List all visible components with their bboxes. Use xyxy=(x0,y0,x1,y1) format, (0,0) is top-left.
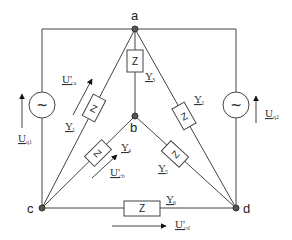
label-y5: Y 5 xyxy=(158,162,168,175)
svg-text:Z: Z xyxy=(139,203,145,214)
svg-text:~: ~ xyxy=(230,97,242,113)
voltage-source-q2: ~ xyxy=(223,92,249,118)
arrow-ucd: U' cd xyxy=(112,218,190,231)
svg-text:a: a xyxy=(131,8,139,23)
impedance-y6: Z xyxy=(124,201,160,216)
impedance-y1: Z xyxy=(82,94,106,122)
svg-text:4: 4 xyxy=(128,148,131,154)
svg-text:cb: cb xyxy=(119,173,125,179)
impedance-y2: Z xyxy=(172,102,196,130)
impedance-y3: Z xyxy=(127,50,143,72)
label-y2: Y 2 xyxy=(194,93,204,106)
svg-text:3: 3 xyxy=(152,77,155,83)
label-y4: Y 4 xyxy=(121,141,131,154)
svg-text:d: d xyxy=(243,201,250,216)
label-y1: Y 1 xyxy=(65,120,75,133)
node-a: a xyxy=(131,8,139,32)
svg-text:c: c xyxy=(27,201,34,216)
svg-text:2: 2 xyxy=(201,100,204,106)
circuit-diagram: Z Z Z Z Z Z ~ ~ a b c xyxy=(0,0,292,240)
svg-text:b: b xyxy=(130,120,137,135)
svg-text:U: U xyxy=(18,132,26,144)
label-y6: Y 6 xyxy=(166,193,176,206)
svg-text:cd: cd xyxy=(184,225,190,231)
svg-text:q1: q1 xyxy=(26,139,32,145)
voltage-source-q1: ~ xyxy=(29,92,55,118)
label-y3: Y 3 xyxy=(145,70,155,83)
arrow-uq2: U q2 xyxy=(256,96,279,123)
node-b: b xyxy=(130,113,138,135)
svg-text:ca: ca xyxy=(71,80,77,86)
svg-text:U: U xyxy=(265,107,273,119)
svg-text:6: 6 xyxy=(173,200,176,206)
svg-text:q2: q2 xyxy=(273,114,279,120)
svg-text:1: 1 xyxy=(72,127,75,133)
svg-text:~: ~ xyxy=(36,97,48,113)
svg-text:Z: Z xyxy=(132,56,138,67)
svg-text:5: 5 xyxy=(165,169,168,175)
